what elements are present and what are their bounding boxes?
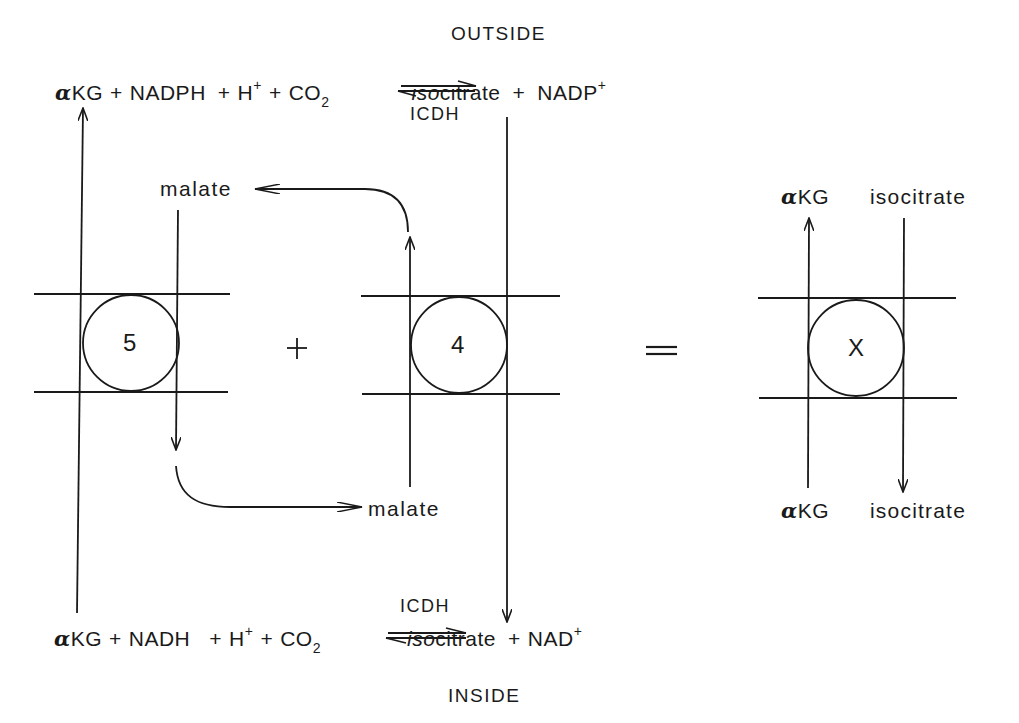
- outside-label: OUTSIDE: [451, 24, 546, 43]
- malate-out-curve: [255, 189, 408, 232]
- plus-sign: +: [110, 81, 123, 104]
- iso-prefix: iso: [411, 81, 439, 104]
- akg-export-arrow: [77, 108, 83, 613]
- alpha-symbol: α: [54, 626, 71, 651]
- net-isocitrate-bottom-label: isocitrate: [870, 500, 966, 521]
- top-equation: αKG+NADPH+H++CO2isocitrate+NADP+: [55, 80, 606, 107]
- plus-sign: +: [260, 627, 273, 650]
- charge: +: [245, 623, 254, 639]
- alpha-symbol: α: [781, 498, 798, 523]
- plus-operator: [287, 338, 307, 359]
- nad-text: NAD: [528, 627, 574, 650]
- charge: +: [574, 623, 583, 639]
- equals-operator: [646, 347, 677, 354]
- plus-sign: +: [109, 627, 122, 650]
- citrate-text: citrate: [435, 627, 496, 650]
- akg-text: KG: [72, 81, 103, 104]
- akg-text: KG: [798, 499, 829, 522]
- akg-text: KG: [71, 627, 102, 650]
- diagram-lines: [0, 0, 1019, 723]
- malate-bottom-label: malate: [368, 498, 440, 519]
- charge: +: [253, 77, 262, 93]
- subscript: 2: [321, 94, 329, 110]
- malate-top-label: malate: [160, 178, 232, 199]
- iso-prefix: iso: [407, 627, 435, 650]
- malate-in-curve: [176, 466, 362, 507]
- akg-text: KG: [798, 185, 829, 208]
- co2-text: CO: [280, 627, 313, 650]
- alpha-symbol: α: [781, 184, 798, 209]
- net-isocitrate-top-label: isocitrate: [870, 186, 966, 207]
- subscript: 2: [313, 640, 321, 656]
- plus-sign: +: [513, 81, 526, 104]
- proton-text: H: [238, 81, 254, 104]
- proton-text: H: [229, 627, 245, 650]
- citrate-text: citrate: [440, 81, 501, 104]
- transporter-x-label: X: [848, 336, 865, 360]
- bottom-equation: αKG+NADH+H++CO2isocitrate+NAD+: [54, 626, 582, 653]
- shuttle-diagram: OUTSIDE αKG+NADPH+H++CO2isocitrate+NADP+…: [0, 0, 1019, 723]
- nadp-text: NADP: [537, 81, 597, 104]
- transporter-5-label: 5: [123, 331, 137, 355]
- co2-text: CO: [289, 81, 322, 104]
- plus-sign: +: [508, 627, 521, 650]
- nadh-text: NADH: [129, 627, 191, 650]
- transporter-4-lines: [361, 237, 560, 487]
- net-akg-bottom-label: αKG: [781, 500, 829, 521]
- net-akg-top-label: αKG: [781, 186, 829, 207]
- top-enzyme-label: ICDH: [410, 105, 460, 123]
- transporter-4-label: 4: [451, 333, 465, 357]
- nadph-text: NADPH: [130, 81, 206, 104]
- bottom-enzyme-label: ICDH: [400, 597, 450, 615]
- plus-sign: +: [218, 81, 231, 104]
- inside-label: INSIDE: [448, 686, 520, 705]
- alpha-symbol: α: [55, 80, 72, 105]
- charge: +: [598, 77, 607, 93]
- plus-sign: +: [269, 81, 282, 104]
- plus-sign: +: [209, 627, 222, 650]
